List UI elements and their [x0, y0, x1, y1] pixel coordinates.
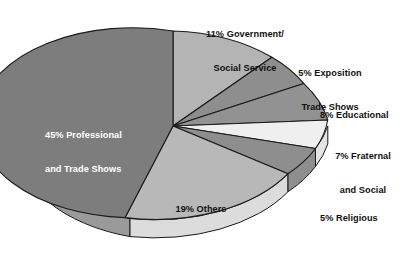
pie-chart-figure: 11% Government/ Social Service 5% Exposi…: [0, 0, 410, 256]
slice-label-professional-line1: 45% Professional: [45, 130, 175, 141]
slice-label-religious-line1: 5% Religious: [320, 213, 408, 224]
slice-label-fraternal-line1: 7% Fraternal: [318, 151, 408, 162]
slice-label-others-line1: 19% Others: [155, 204, 247, 215]
slice-label-professional: 45% Professional and Trade Shows: [45, 107, 175, 198]
slice-label-professional-line2: and Trade Shows: [45, 164, 175, 175]
slice-label-government-line1: 11% Government/: [170, 29, 320, 40]
slice-label-educational-line1: 8% Educational: [320, 110, 410, 121]
slice-label-religious: 5% Religious: [320, 190, 408, 247]
slice-label-exposition-line1: 5% Exposition: [268, 68, 392, 79]
